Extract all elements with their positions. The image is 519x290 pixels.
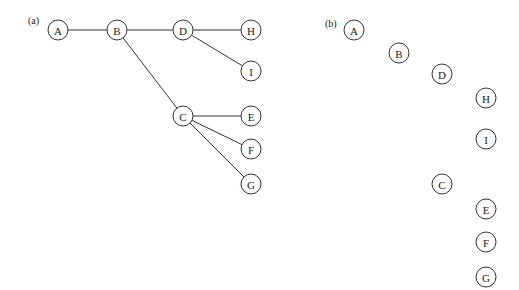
node-F: F (476, 232, 496, 252)
panel-b: (b)ABDHICEFG (325, 18, 496, 287)
node-label: G (247, 179, 255, 191)
node-G: G (241, 174, 261, 194)
node-B: B (107, 20, 127, 40)
node-A: A (344, 20, 364, 40)
node-label: A (350, 25, 358, 37)
node-label: A (54, 25, 62, 37)
node-G: G (476, 267, 496, 287)
node-H: H (476, 88, 496, 108)
edge-C-G (190, 123, 244, 177)
edge-B-C (123, 38, 177, 108)
node-label: B (395, 48, 402, 60)
node-B: B (389, 43, 409, 63)
node-label: F (483, 237, 489, 249)
panel-label: (b) (325, 18, 337, 30)
node-H: H (241, 20, 261, 40)
panel-label: (a) (28, 15, 39, 27)
node-label: D (179, 25, 187, 37)
node-D: D (173, 20, 193, 40)
node-label: F (248, 144, 254, 156)
node-label: I (249, 66, 253, 78)
node-A: A (48, 20, 68, 40)
node-label: E (483, 204, 490, 216)
node-label: H (247, 25, 255, 37)
node-E: E (476, 199, 496, 219)
node-label: D (438, 69, 446, 81)
node-I: I (476, 129, 496, 149)
edge-D-I (192, 35, 243, 66)
node-F: F (241, 139, 261, 159)
node-label: H (482, 93, 490, 105)
node-label: C (179, 111, 186, 123)
node-label: E (248, 111, 255, 123)
panel-a: (a)ABDHICEFG (28, 15, 261, 194)
node-I: I (241, 61, 261, 81)
node-C: C (173, 106, 193, 126)
node-D: D (432, 64, 452, 84)
node-label: C (438, 179, 445, 191)
node-label: B (113, 25, 120, 37)
node-label: I (484, 134, 488, 146)
tree-diagram: (a)ABDHICEFG(b)ABDHICEFG (0, 0, 519, 290)
node-label: G (482, 272, 490, 284)
node-E: E (241, 106, 261, 126)
node-C: C (432, 174, 452, 194)
